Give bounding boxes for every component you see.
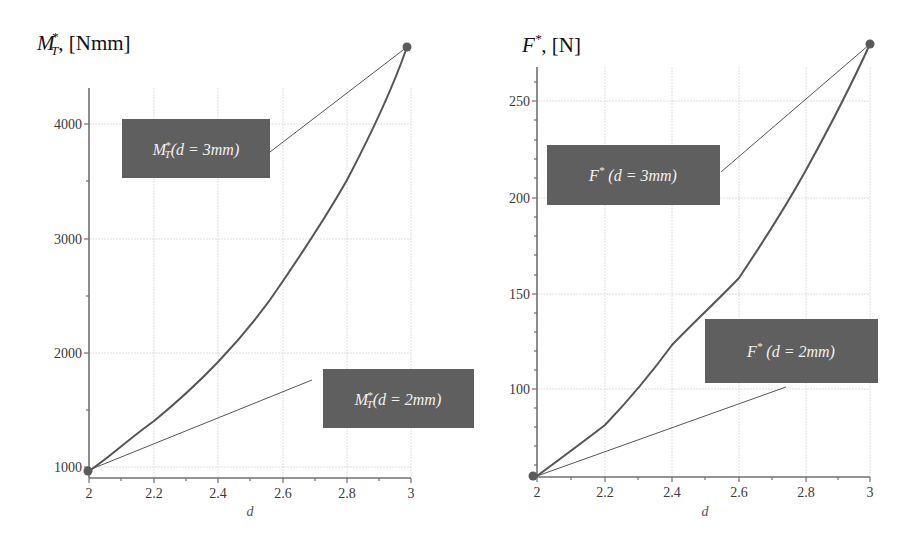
data-point-min [84, 467, 93, 476]
x-tick-label: 2.8 [338, 486, 356, 501]
y-tick-label: 250 [509, 94, 530, 109]
y-tick-label: 3000 [54, 232, 82, 247]
x-tick-label: 2 [534, 485, 541, 500]
x-tick-label: 2.2 [596, 485, 614, 500]
data-point-max [866, 40, 875, 49]
x-tick-label: 3 [408, 486, 415, 501]
y-axis-title: M*T, [Nmm] [36, 29, 131, 58]
charts-canvas: 2 2.2 2.4 2.6 2.8 3 1000 2000 3000 4000 … [0, 0, 909, 538]
svg-text:M*T(d = 3mm): M*T(d = 3mm) [152, 139, 240, 160]
y-tick-label: 2000 [54, 346, 82, 361]
svg-text:M*T(d = 2mm): M*T(d = 2mm) [354, 389, 442, 410]
x-tick-label: 2.4 [663, 485, 681, 500]
chart-force: 2 2.2 2.4 2.6 2.8 3 100 150 200 250 d F*… [509, 31, 878, 519]
x-tick-label: 3 [867, 485, 874, 500]
data-point-min [529, 472, 538, 481]
y-tick-label: 100 [509, 382, 530, 397]
y-axis-title: F*, [N] [521, 31, 581, 57]
grid-lines [537, 67, 870, 477]
annotation-leader-line [537, 387, 786, 476]
annotation-box-2mm: M*T(d = 2mm) [323, 369, 474, 428]
annotation-leader-line [89, 380, 312, 470]
x-tick-label: 2.2 [145, 486, 163, 501]
annotation-box-3mm: F* (d = 3mm) [547, 145, 720, 205]
data-curve [537, 44, 870, 476]
y-tick-label: 200 [509, 191, 530, 206]
data-point-max [403, 43, 412, 52]
x-axis-label: d [702, 504, 710, 519]
y-tick-label: 150 [509, 287, 530, 302]
x-tick-label: 2.4 [209, 486, 227, 501]
x-tick-label: 2.6 [274, 486, 292, 501]
annotation-box-2mm: F* (d = 2mm) [705, 319, 878, 383]
chart-torque: 2 2.2 2.4 2.6 2.8 3 1000 2000 3000 4000 … [36, 29, 474, 519]
y-tick-label: 1000 [54, 460, 82, 475]
y-tick-label: 4000 [54, 117, 82, 132]
x-tick-label: 2 [86, 486, 93, 501]
annotation-box-3mm: M*T(d = 3mm) [122, 119, 270, 178]
x-tick-label: 2.8 [797, 485, 815, 500]
x-axis-label: d [247, 504, 255, 519]
x-tick-label: 2.6 [730, 485, 748, 500]
annotation-leader-line [721, 44, 870, 172]
